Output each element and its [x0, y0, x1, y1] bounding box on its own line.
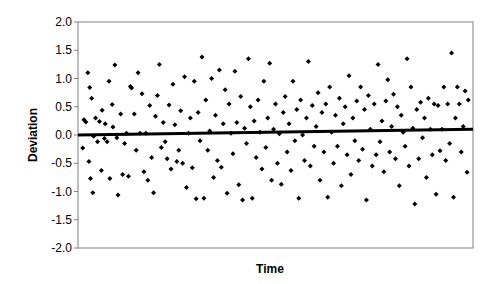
y-tick-label: -2.0 — [51, 241, 72, 255]
y-tick-label: 0.0 — [55, 128, 72, 142]
x-axis-label: Time — [256, 262, 284, 276]
y-tick-label: 2.0 — [55, 15, 72, 29]
y-tick-label: 1.5 — [55, 43, 72, 57]
y-tick-label: 1.0 — [55, 72, 72, 86]
y-tick-label: -1.0 — [51, 185, 72, 199]
y-tick-label: -0.5 — [51, 156, 72, 170]
y-tick-label: -1.5 — [51, 213, 72, 227]
y-tick-label: 0.5 — [55, 100, 72, 114]
y-axis: 2.01.51.00.50.0-0.5-1.0-1.5-2.0 — [51, 15, 78, 255]
scatter-chart: 2.01.51.00.50.0-0.5-1.0-1.5-2.0 Time Dev… — [0, 0, 498, 284]
y-axis-label: Deviation — [26, 108, 40, 162]
